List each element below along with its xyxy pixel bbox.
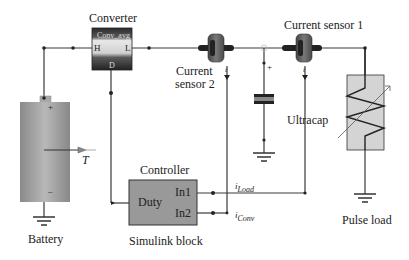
sensor-2-i-label: i (225, 64, 227, 77)
controller-in2-port: In2 (175, 207, 191, 220)
battery-label: Battery (28, 233, 63, 246)
current-sensor-1[interactable] (282, 34, 322, 80)
ultracap-label: Ultracap (287, 114, 328, 127)
i-load-subscript: Load (238, 185, 254, 194)
battery-plus-label: + (48, 101, 53, 114)
ultracap-plus-label: + (267, 61, 272, 74)
i-conv-label: iConv (235, 209, 254, 222)
i-load-label: iLoad (235, 180, 254, 193)
battery-temp-label: T (82, 154, 89, 167)
converter-port-l: L (125, 42, 131, 55)
converter-label: Converter (89, 12, 137, 25)
battery[interactable] (20, 96, 96, 202)
current-sensor-2-label-line2: sensor 2 (175, 78, 215, 91)
ultracap-ground-icon (253, 153, 275, 161)
controller-duty-port: Duty (138, 196, 162, 209)
current-sensor-1-label: Current sensor 1 (284, 19, 363, 32)
battery-minus-label: – (48, 185, 53, 198)
pulse-load-label: Pulse load (342, 214, 392, 227)
controller-in1-port: In1 (175, 186, 191, 199)
i-conv-subscript: Conv (238, 214, 255, 223)
load-ground-icon (354, 194, 376, 202)
sensor-1-i-label: i (303, 64, 305, 77)
simulink-block-label: Simulink block (129, 235, 203, 248)
controller-label: Controller (140, 164, 189, 177)
duty-arrow-icon (111, 201, 115, 205)
converter-port-d: D (109, 59, 115, 72)
ultracap[interactable] (254, 94, 274, 104)
converter-block-label: Conv_avg (97, 29, 130, 42)
battery-ground-icon (33, 217, 55, 225)
pulse-load[interactable] (338, 48, 390, 150)
converter-port-h: H (94, 42, 101, 55)
